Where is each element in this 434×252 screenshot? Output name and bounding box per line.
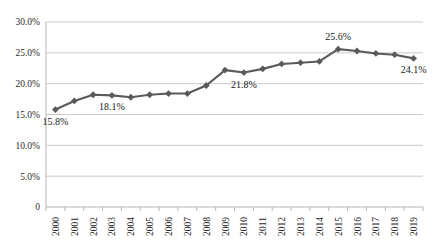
x-axis-tick-label: 2018 xyxy=(390,217,400,236)
data-value-label: 24.1% xyxy=(401,64,427,75)
x-axis-tick-label: 2004 xyxy=(126,217,136,236)
x-axis-tick-label: 2007 xyxy=(183,217,193,236)
y-axis-tick-label: 10.0% xyxy=(15,141,40,151)
y-axis-tick-label: 5.0% xyxy=(20,172,40,182)
x-axis-tick-label: 2009 xyxy=(221,217,231,236)
x-axis-tick-label: 2016 xyxy=(353,217,363,236)
x-axis-tick-label: 2008 xyxy=(202,217,212,236)
data-value-label: 21.8% xyxy=(231,79,257,90)
y-axis-tick-label: 15.0% xyxy=(15,110,40,120)
x-axis-tick-label: 2017 xyxy=(371,217,381,236)
x-axis-tick-label: 2014 xyxy=(315,217,325,236)
data-value-label: 15.8% xyxy=(43,116,69,127)
x-axis-tick-label: 2006 xyxy=(164,217,174,236)
x-axis-tick-label: 2005 xyxy=(145,217,155,236)
y-axis-tick-label: 30.0% xyxy=(15,17,40,27)
x-axis-tick-label: 2001 xyxy=(70,217,80,236)
x-axis-tick-label: 2013 xyxy=(296,217,306,236)
data-value-label: 18.1% xyxy=(99,101,125,112)
x-axis-tick-label: 2000 xyxy=(51,217,61,236)
data-value-label: 25.6% xyxy=(325,31,351,42)
x-axis-tick-label: 2015 xyxy=(334,217,344,236)
x-axis-tick-label: 2011 xyxy=(258,217,268,236)
x-axis-tick-label: 2010 xyxy=(239,217,249,236)
x-axis-tick-label: 2012 xyxy=(277,217,287,236)
x-axis-tick-marks xyxy=(46,207,423,211)
y-axis-tick-label: 0 xyxy=(35,202,40,212)
x-axis-tick-label: 2003 xyxy=(107,217,117,236)
line-chart: 05.0%10.0%15.0%20.0%25.0%30.0% 200020012… xyxy=(0,0,434,252)
x-axis-tick-label: 2002 xyxy=(89,217,99,236)
y-axis-tick-label: 20.0% xyxy=(15,79,40,89)
chart-canvas: 05.0%10.0%15.0%20.0%25.0%30.0% 200020012… xyxy=(0,0,434,252)
x-axis-tick-label: 2019 xyxy=(409,217,419,236)
y-axis-tick-label: 25.0% xyxy=(15,48,40,58)
